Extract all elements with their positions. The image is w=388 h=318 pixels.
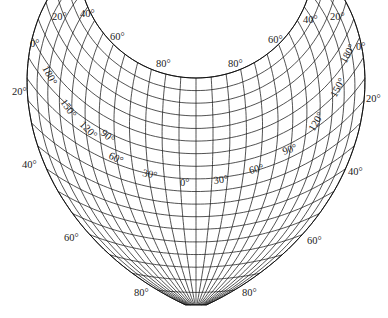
meridian-line xyxy=(72,20,189,305)
meridian-line xyxy=(206,0,355,305)
label-lat-0-left: 0° xyxy=(30,38,39,49)
label-lat-40-left: 40° xyxy=(22,159,37,170)
label-lat-40-right: 40° xyxy=(348,166,363,177)
label-lon-60-left: 60° xyxy=(107,150,125,166)
label-lat-80-top-right: 80° xyxy=(228,58,243,69)
meridian-line xyxy=(205,0,344,305)
label-lon-0: 0° xyxy=(180,177,189,188)
label-lon-60-right: 60° xyxy=(248,162,265,176)
label-lat-20-top-right: 20° xyxy=(330,11,345,22)
label-lon-30-left: 30° xyxy=(142,167,159,181)
label-lon-120-right: 120° xyxy=(306,110,326,133)
graticule-grid xyxy=(27,0,365,305)
label-lat-20-right: 20° xyxy=(366,93,381,104)
label-lat-40-top-left: 40° xyxy=(80,8,95,19)
label-lat-60-top-right: 60° xyxy=(268,34,283,45)
label-lat-80-bottom-right: 80° xyxy=(242,287,257,298)
label-lat-80-top-left: 80° xyxy=(156,58,171,69)
label-lat-60-top-left: 60° xyxy=(110,31,125,42)
label-lat-40-top-right: 40° xyxy=(303,14,318,25)
label-lat-0-right: 0° xyxy=(356,41,365,52)
label-lat-60-right: 60° xyxy=(307,235,322,246)
label-lon-180-left: 180° xyxy=(40,64,59,87)
label-lon-120-left: 120° xyxy=(78,119,100,141)
label-lat-20-top-left: 20° xyxy=(52,11,67,22)
parallel-line xyxy=(66,0,326,91)
label-lon-30-right: 30° xyxy=(213,173,229,186)
projection-graticule-figure: 20° 40° 60° 80° 0° 20° 40° 60° 80° 20° 4… xyxy=(0,0,388,318)
label-lat-20-left: 20° xyxy=(12,86,27,97)
meridian-line xyxy=(85,33,190,305)
label-lat-60-left: 60° xyxy=(64,232,79,243)
label-lat-80-bottom-left: 80° xyxy=(134,287,149,298)
